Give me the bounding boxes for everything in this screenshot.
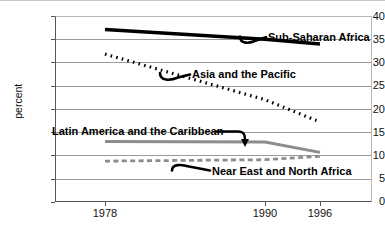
series-line-near-east-and-north-africa	[105, 156, 320, 161]
series-label-sub-saharan-africa: Sub-Saharan Africa	[268, 31, 370, 43]
series-label-latin-america-and-the-caribbean: Latin America and the Caribbean	[52, 125, 223, 137]
series-line-asia-and-the-pacific	[105, 54, 320, 122]
callout-hook-asia-and-the-pacific	[160, 73, 190, 80]
callout-hook-near-east-and-north-africa	[172, 165, 210, 171]
series-line-latin-america-and-the-caribbean	[105, 142, 320, 153]
series-label-near-east-and-north-africa: Near East and North Africa	[212, 165, 352, 177]
series-label-asia-and-the-pacific: Asia and the Pacific	[192, 68, 296, 80]
line-chart: percent 40 35 30 25 20 15 10 5 0 1978 19…	[0, 0, 385, 239]
